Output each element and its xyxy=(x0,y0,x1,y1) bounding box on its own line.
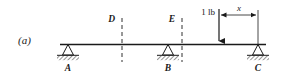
support-c-ground-hatch xyxy=(247,56,269,61)
support-a-label: A xyxy=(64,63,71,73)
beam-diagram-svg: (a) A B C D xyxy=(0,0,286,77)
support-b-label: B xyxy=(164,63,171,73)
support-a-triangle xyxy=(63,45,74,56)
support-a: A xyxy=(57,45,79,74)
load-magnitude-label: 1 lb xyxy=(201,7,215,17)
section-line-d: D xyxy=(107,14,122,62)
support-a-ground-hatch xyxy=(57,56,79,61)
applied-load: 1 lb xyxy=(201,7,219,41)
support-c-label: C xyxy=(255,63,262,73)
dimension-x: x xyxy=(221,3,258,45)
support-c-triangle xyxy=(253,45,264,56)
panel-label: (a) xyxy=(18,34,31,47)
section-d-label: D xyxy=(107,14,115,24)
section-e-label: E xyxy=(168,14,175,24)
support-c: C xyxy=(247,45,269,74)
beam-diagram-figure: (a) A B C D xyxy=(0,0,286,77)
support-b: B xyxy=(157,45,179,74)
dimension-x-label: x xyxy=(236,3,241,13)
support-b-ground-hatch xyxy=(157,56,179,61)
support-b-triangle xyxy=(163,45,174,56)
